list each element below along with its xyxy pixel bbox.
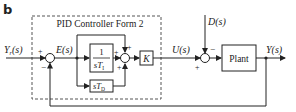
sum1-minus-sign: − [41, 62, 46, 72]
error-label: E(s) [55, 44, 73, 56]
panel-label: b [3, 2, 12, 17]
disturbance-summing-junction [201, 54, 210, 63]
reference-label: Yr(s) [4, 44, 23, 56]
sum2-top-plus: + [127, 43, 132, 52]
sum2-left-plus: + [114, 48, 119, 57]
error-summing-junction [46, 54, 55, 63]
plant-label: Plant [229, 54, 249, 64]
pid-summing-junction [121, 54, 130, 63]
integral-numerator: 1 [99, 47, 104, 57]
disturbance-label: D(s) [207, 16, 226, 28]
output-label: Y(s) [266, 44, 283, 56]
derivative-input-line [77, 58, 89, 86]
sum3-plus-sign: + [195, 63, 200, 72]
sum2-bottom-plus: + [117, 63, 122, 72]
sum1-plus-sign: + [38, 47, 43, 56]
control-label: U(s) [172, 44, 190, 56]
pid-block-diagram: b PID Controller Form 2 Yr(s) + − E(s) 1… [0, 0, 296, 112]
controller-title: PID Controller Form 2 [57, 19, 144, 29]
gain-label: K [142, 54, 150, 64]
sum3-minus-sign: − [210, 44, 215, 54]
